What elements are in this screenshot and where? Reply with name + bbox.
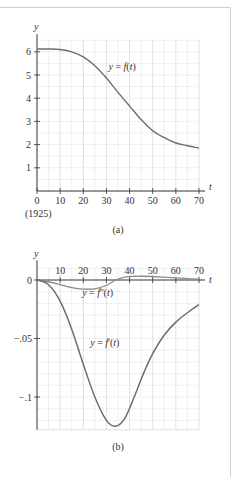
- x-tick-label: 20: [78, 265, 88, 276]
- grid-b: [37, 268, 199, 429]
- y-tick-label: 0: [27, 275, 32, 286]
- x-tick-label: 0: [35, 195, 40, 206]
- x-tick-label: 40: [125, 195, 135, 206]
- x-tick-label: 70: [194, 265, 204, 276]
- x-tick-label: 50: [148, 265, 158, 276]
- y-tick-label: 4: [26, 93, 31, 104]
- y-tick-label: 6: [26, 46, 31, 57]
- y-axis-label-a: y: [33, 21, 39, 32]
- y-tick-label: 3: [26, 116, 31, 127]
- y-tick-label: −.1: [19, 392, 32, 403]
- x-tick-label: 60: [171, 195, 181, 206]
- x-tick-label: 30: [101, 195, 111, 206]
- x-tick-label: 30: [101, 265, 111, 276]
- x-axis-label-b: t: [209, 274, 212, 285]
- x-tick-label: 60: [171, 265, 181, 276]
- annotation-f: y = f(t): [107, 61, 135, 73]
- y-tick-label: 1: [26, 162, 31, 173]
- caption-a: (a): [112, 224, 123, 236]
- annotation-f-prime: y = f'(t): [89, 337, 119, 349]
- x-tick-label: 10: [55, 195, 65, 206]
- x-tick-label: 10: [55, 265, 65, 276]
- y-axis-label-b: y: [33, 248, 39, 259]
- x-tick-note: (1925): [25, 208, 52, 220]
- y-tick-label: 2: [26, 139, 31, 150]
- x-axis-label-a: t: [209, 181, 212, 192]
- chart-a: yt010203040506070(1925)123456y = f(t)(a): [25, 21, 212, 236]
- x-tick-label: 20: [78, 195, 88, 206]
- caption-b: (b): [112, 441, 124, 453]
- x-tick-label: 50: [148, 195, 158, 206]
- y-tick-label: 5: [26, 70, 31, 81]
- x-tick-label: 40: [125, 265, 135, 276]
- annotation-f-double-prime: y = f''(t): [81, 287, 113, 299]
- chart-b: yt102030405060700−.05−.1y = f''(t)y = f'…: [14, 248, 212, 453]
- x-tick-label: 70: [194, 195, 204, 206]
- y-tick-label: −.05: [14, 333, 32, 344]
